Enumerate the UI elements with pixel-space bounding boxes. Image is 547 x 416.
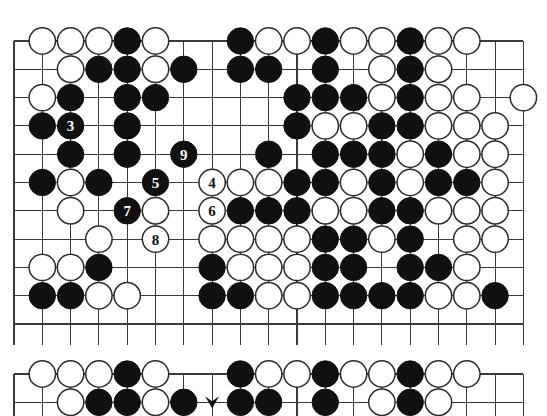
black-stone[interactable] — [369, 283, 395, 309]
stone-disc[interactable] — [57, 254, 83, 280]
stone-disc[interactable] — [142, 28, 168, 54]
white-stone[interactable] — [284, 361, 310, 387]
black-stone[interactable] — [227, 28, 253, 54]
stone-disc[interactable] — [256, 283, 282, 309]
stone-disc[interactable] — [29, 254, 55, 280]
white-stone[interactable] — [340, 198, 366, 224]
black-stone[interactable] — [340, 283, 366, 309]
white-stone[interactable] — [482, 226, 508, 252]
stone-disc[interactable] — [199, 283, 225, 309]
stone-disc[interactable] — [29, 283, 55, 309]
black-stone[interactable] — [256, 56, 282, 82]
white-stone[interactable] — [425, 84, 451, 110]
stone-disc[interactable] — [397, 361, 423, 387]
black-stone[interactable] — [397, 84, 423, 110]
stone-disc[interactable] — [454, 254, 480, 280]
stone-disc[interactable] — [397, 113, 423, 139]
black-stone[interactable] — [312, 283, 338, 309]
stone-disc[interactable] — [482, 283, 508, 309]
stone-disc[interactable] — [312, 254, 338, 280]
black-stone[interactable] — [312, 84, 338, 110]
black-stone[interactable] — [86, 254, 112, 280]
go-board-upper-canvas[interactable]: 3954768 — [0, 0, 547, 345]
stone-disc[interactable] — [312, 169, 338, 195]
black-stone[interactable] — [114, 389, 140, 415]
stone-disc[interactable] — [454, 141, 480, 167]
black-stone[interactable] — [312, 28, 338, 54]
stone-disc[interactable] — [284, 361, 310, 387]
stone-disc[interactable] — [29, 361, 55, 387]
stone-disc[interactable] — [369, 198, 395, 224]
stone-disc[interactable] — [57, 198, 83, 224]
white-stone[interactable] — [86, 361, 112, 387]
black-stone[interactable] — [425, 169, 451, 195]
white-stone[interactable] — [340, 169, 366, 195]
stone-layer[interactable]: 3954768 — [29, 28, 537, 309]
stone-disc[interactable] — [340, 198, 366, 224]
black-stone[interactable] — [114, 84, 140, 110]
white-stone[interactable] — [397, 169, 423, 195]
stone-disc[interactable] — [227, 254, 253, 280]
stone-disc[interactable] — [256, 389, 282, 415]
stone-disc[interactable] — [256, 198, 282, 224]
black-stone[interactable] — [312, 254, 338, 280]
stone-disc[interactable] — [284, 113, 310, 139]
stone-disc[interactable] — [29, 84, 55, 110]
black-stone[interactable] — [397, 283, 423, 309]
white-stone[interactable] — [454, 113, 480, 139]
white-stone[interactable] — [369, 389, 395, 415]
white-stone[interactable] — [57, 389, 83, 415]
go-board-lower[interactable] — [0, 352, 547, 416]
stone-disc[interactable] — [86, 389, 112, 415]
stone-disc[interactable] — [199, 254, 225, 280]
white-stone[interactable] — [86, 28, 112, 54]
white-stone[interactable] — [114, 283, 140, 309]
white-stone[interactable] — [256, 254, 282, 280]
stone-disc[interactable] — [312, 84, 338, 110]
white-stone[interactable] — [57, 254, 83, 280]
black-stone[interactable] — [340, 226, 366, 252]
stone-disc[interactable] — [312, 113, 338, 139]
stone-disc[interactable] — [312, 283, 338, 309]
black-stone[interactable] — [57, 141, 83, 167]
stone-disc[interactable] — [425, 84, 451, 110]
stone-disc[interactable] — [227, 389, 253, 415]
stone-disc[interactable] — [454, 169, 480, 195]
black-stone[interactable] — [114, 141, 140, 167]
stone-disc[interactable] — [284, 169, 310, 195]
white-stone[interactable] — [284, 283, 310, 309]
stone-disc[interactable] — [114, 28, 140, 54]
stone-disc[interactable] — [284, 28, 310, 54]
black-stone[interactable] — [369, 141, 395, 167]
white-stone[interactable] — [29, 361, 55, 387]
black-stone[interactable] — [171, 56, 197, 82]
white-stone[interactable] — [312, 113, 338, 139]
stone-disc[interactable] — [340, 141, 366, 167]
white-stone[interactable]: 8 — [142, 226, 168, 252]
black-stone[interactable] — [284, 113, 310, 139]
white-stone[interactable] — [29, 254, 55, 280]
white-stone[interactable] — [425, 28, 451, 54]
white-stone[interactable] — [369, 84, 395, 110]
stone-disc[interactable] — [86, 28, 112, 54]
black-stone[interactable] — [227, 283, 253, 309]
stone-disc[interactable] — [454, 113, 480, 139]
stone-disc[interactable] — [397, 56, 423, 82]
stone-disc[interactable] — [142, 84, 168, 110]
white-stone[interactable] — [482, 113, 508, 139]
white-stone[interactable] — [256, 169, 282, 195]
black-stone[interactable] — [256, 389, 282, 415]
white-stone[interactable] — [454, 254, 480, 280]
black-stone[interactable] — [284, 84, 310, 110]
white-stone[interactable] — [482, 169, 508, 195]
stone-disc[interactable] — [284, 254, 310, 280]
stone-disc[interactable] — [256, 56, 282, 82]
stone-disc[interactable] — [256, 254, 282, 280]
black-stone[interactable] — [171, 389, 197, 415]
stone-disc[interactable] — [142, 361, 168, 387]
white-stone[interactable] — [454, 283, 480, 309]
stone-disc[interactable] — [340, 283, 366, 309]
black-stone[interactable] — [284, 169, 310, 195]
white-stone[interactable] — [425, 113, 451, 139]
stone-disc[interactable] — [86, 283, 112, 309]
